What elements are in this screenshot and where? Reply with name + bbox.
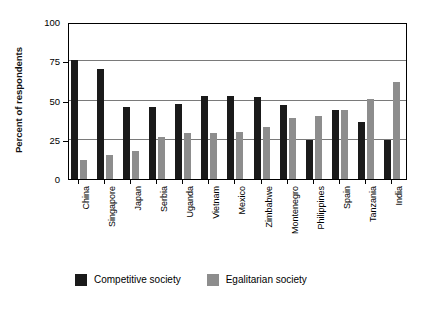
bar-egalitarian bbox=[106, 155, 113, 179]
bar-group bbox=[147, 24, 173, 179]
x-tick-label: Japan bbox=[134, 186, 143, 244]
bar-competitive bbox=[123, 107, 130, 179]
x-tick-label: China bbox=[82, 186, 91, 244]
x-tick-mark bbox=[130, 180, 131, 184]
x-tick: Japan bbox=[120, 180, 146, 240]
x-tick: Zimbabwe bbox=[251, 180, 277, 240]
x-tick-label: Mexico bbox=[238, 186, 247, 244]
x-tick-mark bbox=[339, 180, 340, 184]
x-tick-label: Serbia bbox=[160, 186, 169, 244]
bar-competitive bbox=[358, 122, 365, 179]
bar-series-container bbox=[69, 24, 406, 179]
x-tick-label: Spain bbox=[343, 186, 352, 244]
x-tick: Singapore bbox=[94, 180, 120, 240]
bar-group bbox=[330, 24, 356, 179]
x-tick: Philippines bbox=[303, 180, 329, 240]
x-tick-label: Zimbabwe bbox=[265, 186, 274, 244]
bar-group bbox=[278, 24, 304, 179]
bar-egalitarian bbox=[289, 118, 296, 179]
x-tick: Serbia bbox=[146, 180, 172, 240]
y-tick-label: 25 bbox=[20, 136, 60, 146]
bar-egalitarian bbox=[367, 99, 374, 179]
bar-egalitarian bbox=[263, 127, 270, 179]
bar-group bbox=[252, 24, 278, 179]
x-tick: China bbox=[68, 180, 94, 240]
x-tick-mark bbox=[391, 180, 392, 184]
bar-competitive bbox=[97, 69, 104, 179]
bar-competitive bbox=[201, 96, 208, 179]
x-tick-mark bbox=[78, 180, 79, 184]
bar-competitive bbox=[149, 107, 156, 179]
bar-group bbox=[173, 24, 199, 179]
x-tick-label: Singapore bbox=[108, 186, 117, 244]
bar-group bbox=[199, 24, 225, 179]
bar-chart-figure: Percent of respondents 0255075100 ChinaS… bbox=[0, 0, 432, 312]
bar-competitive bbox=[280, 105, 287, 179]
bar-egalitarian bbox=[315, 116, 322, 179]
x-tick-label: Tanzania bbox=[369, 186, 378, 244]
x-tick-mark bbox=[261, 180, 262, 184]
x-axis-labels: ChinaSingaporeJapanSerbiaUgandaVietnamMe… bbox=[68, 180, 407, 242]
bar-egalitarian bbox=[210, 133, 217, 179]
x-tick-label: Vietnam bbox=[212, 186, 221, 244]
bar-competitive bbox=[71, 60, 78, 179]
bar-group bbox=[121, 24, 147, 179]
bar-competitive bbox=[306, 140, 313, 179]
chart-legend: Competitive societyEgalitarian society bbox=[75, 274, 307, 286]
legend-swatch-competitive bbox=[75, 274, 87, 286]
x-tick-mark bbox=[287, 180, 288, 184]
x-tick-label: Uganda bbox=[186, 186, 195, 244]
bar-egalitarian bbox=[158, 137, 165, 179]
bar-group bbox=[69, 24, 95, 179]
bar-competitive bbox=[384, 140, 391, 179]
legend-swatch-egalitarian bbox=[207, 274, 219, 286]
x-tick-mark bbox=[234, 180, 235, 184]
x-tick-mark bbox=[156, 180, 157, 184]
bar-competitive bbox=[332, 110, 339, 179]
x-tick-mark bbox=[208, 180, 209, 184]
bar-group bbox=[356, 24, 382, 179]
x-tick: Vietnam bbox=[198, 180, 224, 240]
x-tick: Spain bbox=[329, 180, 355, 240]
y-tick-label: 0 bbox=[20, 175, 60, 185]
x-tick: Uganda bbox=[172, 180, 198, 240]
y-tick-label: 100 bbox=[20, 18, 60, 28]
legend-label: Competitive society bbox=[94, 274, 181, 286]
bar-egalitarian bbox=[393, 82, 400, 179]
legend-entry: Competitive society bbox=[75, 274, 181, 286]
bar-group bbox=[304, 24, 330, 179]
plot-area bbox=[68, 23, 407, 180]
bar-group bbox=[225, 24, 251, 179]
bar-egalitarian bbox=[341, 110, 348, 179]
bar-competitive bbox=[227, 96, 234, 179]
x-tick-mark bbox=[104, 180, 105, 184]
y-tick-label: 50 bbox=[20, 97, 60, 107]
x-tick-label: Philippines bbox=[317, 186, 326, 244]
bar-competitive bbox=[175, 104, 182, 179]
x-tick-label: Montenegro bbox=[291, 186, 300, 244]
legend-entry: Egalitarian society bbox=[207, 274, 307, 286]
bar-group bbox=[382, 24, 408, 179]
x-tick-mark bbox=[365, 180, 366, 184]
x-tick-label: India bbox=[395, 186, 404, 244]
bar-egalitarian bbox=[184, 133, 191, 179]
y-tick-label: 75 bbox=[20, 57, 60, 67]
x-tick: Tanzania bbox=[355, 180, 381, 240]
bar-egalitarian bbox=[80, 160, 87, 179]
bar-competitive bbox=[254, 97, 261, 179]
x-tick: India bbox=[381, 180, 407, 240]
bar-egalitarian bbox=[132, 151, 139, 179]
x-tick-mark bbox=[182, 180, 183, 184]
x-tick: Montenegro bbox=[277, 180, 303, 240]
x-tick-mark bbox=[313, 180, 314, 184]
x-tick: Mexico bbox=[224, 180, 250, 240]
bar-group bbox=[95, 24, 121, 179]
legend-label: Egalitarian society bbox=[226, 274, 307, 286]
bar-egalitarian bbox=[236, 132, 243, 179]
